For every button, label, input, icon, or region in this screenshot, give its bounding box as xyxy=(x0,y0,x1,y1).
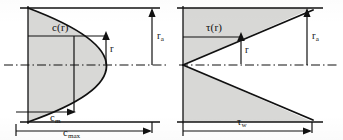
tauw-label-sub: w xyxy=(241,121,246,129)
ra-label-sub: a xyxy=(316,35,319,43)
tauw-dimension-arrow-right xyxy=(303,127,312,134)
r-label: r xyxy=(245,45,249,56)
ra-label-sub: a xyxy=(161,35,164,43)
tau-of-r-label: τ(r) xyxy=(206,22,222,33)
r-label: r xyxy=(110,44,114,55)
ra-label: ra xyxy=(312,31,319,43)
c-of-r-label: c(r) xyxy=(52,22,69,33)
cm-label: cm xyxy=(50,113,60,125)
ra-dimension-arrow-top xyxy=(148,8,155,17)
figure-container: c(r) r ra cm cmax xyxy=(0,0,343,140)
ra-label: ra xyxy=(157,31,164,43)
cmax-label-sub: max xyxy=(68,132,80,140)
panel-shear-stress-profile: τ(r) r ra τw xyxy=(171,0,343,140)
cmax-label: cmax xyxy=(63,128,80,140)
cm-dimension-arrow-right xyxy=(67,108,76,115)
cm-label-sub: m xyxy=(55,117,61,125)
cmax-dimension-arrow-right xyxy=(143,127,152,134)
tauw-label: τw xyxy=(237,117,247,129)
concentration-profile-drawing xyxy=(0,0,172,140)
panel-concentration-profile: c(r) r ra cm cmax xyxy=(0,0,172,140)
shear-stress-profile-drawing xyxy=(171,0,343,140)
